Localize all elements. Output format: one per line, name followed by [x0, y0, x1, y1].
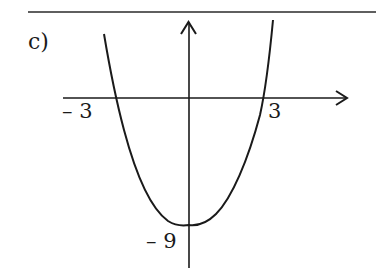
- y-tick-label-neg9: – 9: [146, 231, 177, 252]
- x-tick-label-neg3: – 3: [62, 101, 93, 122]
- x-tick-label-3: 3: [268, 101, 281, 122]
- problem-label: c): [28, 31, 49, 53]
- graph: [0, 0, 376, 268]
